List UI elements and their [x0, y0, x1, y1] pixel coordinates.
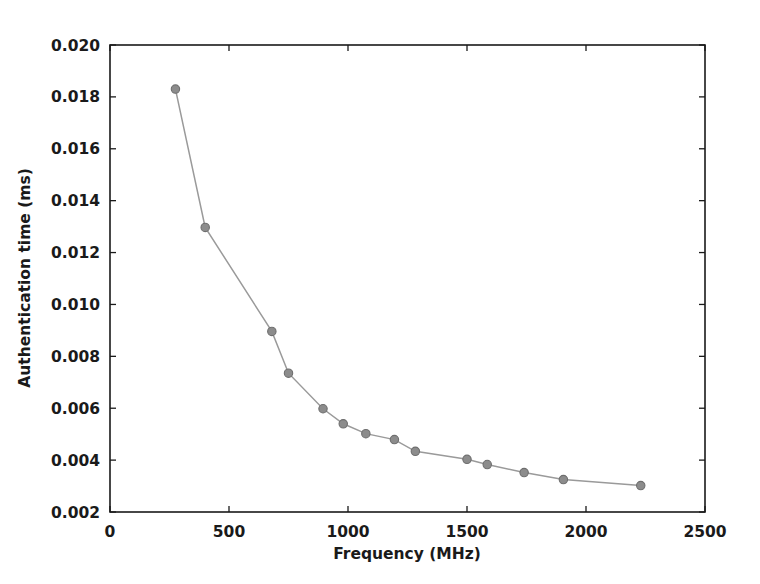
data-point-marker: [268, 327, 276, 335]
x-tick-label: 0: [105, 523, 116, 541]
data-point-marker: [362, 429, 370, 437]
data-point-marker: [463, 455, 471, 463]
y-axis-label: Authentication time (ms): [16, 168, 34, 388]
data-point-marker: [339, 420, 347, 428]
plot-area-background: [110, 45, 705, 512]
y-tick-label: 0.014: [51, 192, 100, 210]
data-point-marker: [637, 481, 645, 489]
y-tick-label: 0.012: [51, 244, 100, 262]
x-tick-label: 500: [213, 523, 246, 541]
y-tick-label: 0.016: [51, 140, 100, 158]
x-tick-label: 2500: [683, 523, 726, 541]
x-tick-label: 2000: [564, 523, 607, 541]
x-axis-label: Frequency (MHz): [333, 545, 481, 563]
data-point-marker: [284, 369, 292, 377]
data-point-marker: [411, 447, 419, 455]
data-point-marker: [520, 468, 528, 476]
y-tick-label: 0.010: [51, 296, 100, 314]
data-point-marker: [171, 85, 179, 93]
y-tick-label: 0.008: [51, 348, 100, 366]
y-tick-label: 0.004: [51, 452, 100, 470]
y-tick-label: 0.002: [51, 504, 100, 522]
data-point-marker: [390, 435, 398, 443]
x-tick-label: 1500: [445, 523, 488, 541]
data-point-marker: [201, 223, 209, 231]
x-tick-label: 1000: [326, 523, 369, 541]
data-point-marker: [319, 405, 327, 413]
line-chart: 05001000150020002500 0.0020.0040.0060.00…: [0, 0, 760, 584]
chart-figure: 05001000150020002500 0.0020.0040.0060.00…: [0, 0, 760, 584]
y-tick-label: 0.018: [51, 88, 100, 106]
data-point-marker: [483, 460, 491, 468]
data-point-marker: [559, 475, 567, 483]
y-tick-label: 0.020: [51, 37, 100, 55]
y-tick-label: 0.006: [51, 400, 100, 418]
